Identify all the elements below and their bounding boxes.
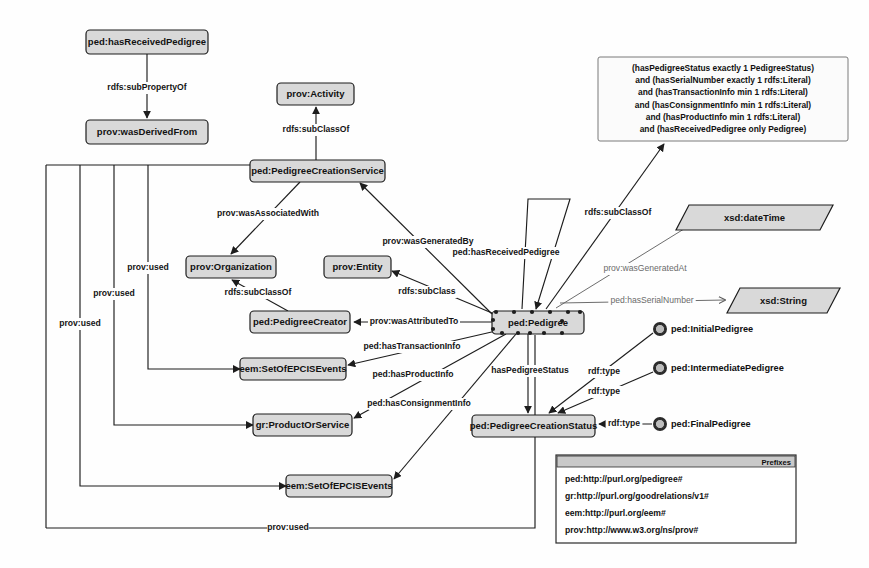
- edge-label-was-associated-with: prov:wasAssociatedWith: [217, 208, 319, 218]
- connection-dot: [578, 310, 582, 314]
- connection-dot: [560, 319, 564, 323]
- node-label: gr:ProductOrService: [256, 419, 349, 430]
- legend-entry: gr:http://purl.org/goodrelations/v1#: [565, 491, 709, 501]
- edge-pedigree-subclassof-restriction: [546, 144, 664, 309]
- individual-core-icon: [655, 324, 664, 333]
- node-label: ped:PedigreeCreator: [253, 316, 347, 327]
- node-xsd-string[interactable]: xsd:String: [727, 288, 840, 313]
- connection-dot: [566, 310, 570, 314]
- edge-label-rdf-type-initial: rdf:type: [588, 366, 620, 376]
- edge-label-sub-class-of-activity: rdfs:subClassOf: [283, 124, 350, 134]
- edge-label-has-received-pedigree: ped:hasReceivedPedigree: [453, 247, 560, 257]
- connection-dot: [516, 331, 520, 335]
- restriction-line: and (hasConsignmentInfo min 1 rdfs:Liter…: [635, 100, 812, 110]
- edge-label-was-generated-by: prov:wasGeneratedBy: [382, 236, 473, 246]
- individual-ped-final-pedigree[interactable]: ped:FinalPedigree: [653, 417, 751, 431]
- node-pedigree-creation-status[interactable]: ped:PedigreeCreationStatus: [470, 415, 598, 437]
- node-label: eem:SetOfEPCISEvents: [285, 480, 392, 491]
- node-product-or-service[interactable]: gr:ProductOrService: [253, 414, 352, 436]
- individual-label: ped:InitialPedigree: [671, 324, 753, 334]
- node-set-of-epcis-events1[interactable]: eem:SetOfEPCISEvents: [239, 358, 346, 380]
- prefixes-legend: Prefixesped:http://purl.org/pedigree#gr:…: [556, 455, 796, 543]
- connection-dot: [491, 327, 495, 331]
- legend-entry: prov:http://www.w3.org/ns/prov#: [565, 525, 699, 535]
- edge-label-has-consignment-info: ped:hasConsignmentInfo: [367, 398, 471, 408]
- node-label: eem:SetOfEPCISEvents: [239, 363, 346, 374]
- node-pedigree[interactable]: ped:Pedigree: [492, 311, 584, 334]
- edge-label-rdf-type-intermediate: rdf:type: [588, 386, 620, 396]
- legend-title: Prefixes: [761, 458, 791, 467]
- connection-dot: [494, 310, 498, 314]
- ontology-diagram: ped:hasReceivedPedigreeprov:wasDerivedFr…: [0, 0, 869, 568]
- node-xsd-date-time[interactable]: xsd:dateTime: [676, 205, 833, 230]
- edge-label-was-attributed-to: prov:wasAttributedTo: [370, 316, 459, 326]
- edge-label-prov-used3: prov:used: [127, 262, 169, 272]
- edge-label-has-serial-number: ped:hasSerialNumber: [610, 295, 693, 305]
- edge-label-has-pedigree-status: hasPedigreeStatus: [491, 365, 569, 375]
- connection-dot: [560, 331, 564, 335]
- restriction-layer: (hasPedigreeStatus exactly 1 PedigreeSta…: [598, 57, 848, 141]
- edge-label-rdf-type-final: rdf:type: [608, 418, 640, 428]
- node-label: prov:Entity: [332, 261, 383, 272]
- node-has-received-pedigree-prop[interactable]: ped:hasReceivedPedigree: [86, 30, 208, 54]
- node-prov-organization[interactable]: prov:Organization: [186, 256, 276, 278]
- node-label: ped:PedigreeCreationStatus: [470, 420, 598, 431]
- restriction-line: and (hasReceivedPedigree only Pedigree): [640, 124, 807, 134]
- edge-label-was-generated-at: prov:wasGeneratedAt: [603, 263, 687, 273]
- connection-dot: [548, 310, 552, 314]
- legend-entry: ped:http://purl.org/pedigree#: [565, 474, 683, 484]
- individuals-layer: ped:InitialPedigreeped:IntermediatePedig…: [653, 322, 784, 431]
- edge-label-sub-class-of-org: rdfs:subClassOf: [225, 287, 292, 297]
- restriction-line: and (hasTransactionInfo min 1 rdfs:Liter…: [638, 87, 808, 97]
- node-set-of-epcis-events2[interactable]: eem:SetOfEPCISEvents: [285, 475, 392, 497]
- edge-label-prov-used2: prov:used: [93, 288, 135, 298]
- restriction-line: and (hasProductInfo min 1 rdfs:Literal): [646, 112, 801, 122]
- node-prov-entity[interactable]: prov:Entity: [324, 256, 391, 278]
- node-label: prov:wasDerivedFrom: [97, 126, 197, 137]
- individual-label: ped:FinalPedigree: [671, 419, 751, 429]
- individual-label: ped:IntermediatePedigree: [671, 363, 784, 373]
- legend-entry: eem:http://purl.org/eem#: [565, 508, 666, 518]
- edge-label-has-transaction-info: ped:hasTransactionInfo: [364, 341, 461, 351]
- node-pedigree-creator[interactable]: ped:PedigreeCreator: [250, 311, 350, 333]
- legend-title-bar: [557, 456, 795, 467]
- node-label: ped:Pedigree: [508, 317, 568, 328]
- edge-label-sub-property-of: rdfs:subPropertyOf: [107, 82, 186, 92]
- connection-dot: [500, 331, 504, 335]
- connection-dot: [542, 331, 546, 335]
- node-prov-activity[interactable]: prov:Activity: [277, 83, 354, 105]
- edge-label-prov-used4: prov:used: [267, 522, 309, 532]
- individual-core-icon: [655, 363, 664, 372]
- node-label: prov:Activity: [286, 88, 345, 99]
- individual-ped-intermediate-pedigree[interactable]: ped:IntermediatePedigree: [653, 361, 784, 375]
- node-pedigree-creation-service[interactable]: ped:PedigreeCreationService: [250, 160, 385, 182]
- restriction-line: and (hasSerialNumber exactly 1 rdfs:Lite…: [635, 75, 811, 85]
- node-label: ped:PedigreeCreationService: [251, 165, 384, 176]
- diagram-canvas: ped:hasReceivedPedigreeprov:wasDerivedFr…: [0, 0, 869, 568]
- prefixes-legend-box[interactable]: Prefixesped:http://purl.org/pedigree#gr:…: [556, 455, 796, 543]
- node-label: xsd:dateTime: [724, 212, 785, 223]
- individual-core-icon: [655, 419, 664, 428]
- node-label: xsd:String: [760, 295, 807, 306]
- connection-dot: [491, 318, 495, 322]
- node-was-derived-from[interactable]: prov:wasDerivedFrom: [86, 120, 208, 144]
- edge-label-sub-class-entity: rdfs:subClass: [398, 286, 456, 296]
- edge-label-has-product-info: ped:hasProductInfo: [372, 369, 453, 379]
- edge-label-sub-class-of-restr: rdfs:subClassOf: [585, 207, 652, 217]
- connection-dot: [530, 310, 534, 314]
- node-label: ped:hasReceivedPedigree: [88, 36, 206, 47]
- node-label: prov:Organization: [190, 261, 272, 272]
- restriction-line: (hasPedigreeStatus exactly 1 PedigreeSta…: [632, 63, 814, 73]
- connection-dot: [528, 331, 532, 335]
- class-restriction-box[interactable]: (hasPedigreeStatus exactly 1 PedigreeSta…: [598, 57, 848, 141]
- individual-ped-initial-pedigree[interactable]: ped:InitialPedigree: [653, 322, 753, 336]
- connection-dot: [512, 310, 516, 314]
- edge-label-prov-used1: prov:used: [59, 318, 101, 328]
